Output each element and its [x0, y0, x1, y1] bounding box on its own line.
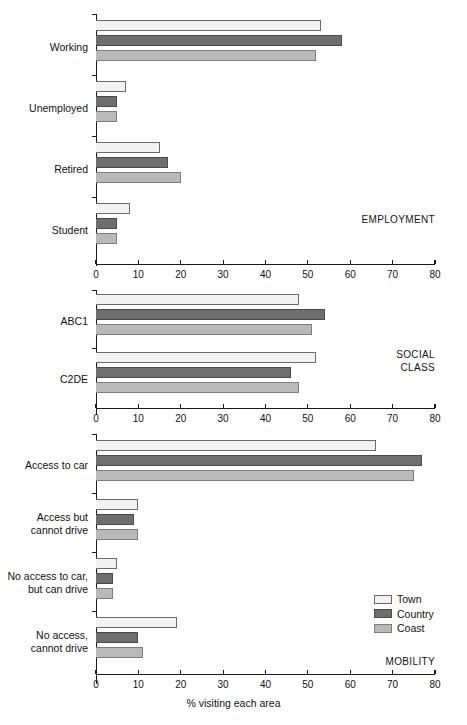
y-tick	[92, 611, 96, 612]
y-tick	[92, 348, 96, 349]
bar-abc1-town	[96, 294, 299, 305]
category-label-student: Student	[0, 224, 88, 237]
legend-label-coast: Coast	[397, 621, 424, 636]
x-tick-label: 80	[429, 413, 440, 424]
bar-working-country	[96, 35, 342, 46]
x-tick-label: 30	[218, 679, 229, 690]
x-tick-label: 80	[429, 269, 440, 280]
bar-unemployed-coast	[96, 111, 117, 122]
x-tick	[350, 260, 351, 264]
bar-abc1-coast	[96, 324, 312, 335]
bar-no-access-cannot-drive-town	[96, 617, 177, 628]
category-label-no-access-can-drive: No access to car, but can drive	[0, 570, 88, 595]
bar-unemployed-town	[96, 81, 126, 92]
x-tick-label: 0	[93, 269, 99, 280]
x-tick	[95, 404, 96, 408]
x-tick	[223, 260, 224, 264]
y-tick	[92, 290, 96, 291]
y-tick	[92, 14, 96, 15]
x-tick-label: 20	[175, 269, 186, 280]
legend-label-town: Town	[397, 592, 422, 607]
x-tick-label: 30	[218, 413, 229, 424]
bar-no-access-cannot-drive-coast	[96, 647, 143, 658]
x-tick-label: 0	[93, 679, 99, 690]
panel-employment: 01020304050607080 Working Unemployed Ret…	[0, 14, 467, 266]
section-caption-mobility: MOBILITY	[275, 655, 435, 668]
bar-no-access-can-drive-country	[96, 573, 113, 584]
bar-access-to-car-country	[96, 455, 422, 466]
x-tick	[95, 260, 96, 264]
x-tick	[265, 404, 266, 408]
bar-access-to-car-coast	[96, 470, 414, 481]
x-tick-label: 60	[345, 269, 356, 280]
x-tick	[265, 260, 266, 264]
x-tick	[392, 404, 393, 408]
section-caption-social-class: SOCIAL CLASS	[275, 348, 435, 374]
x-tick-label: 20	[175, 413, 186, 424]
category-label-c2de: C2DE	[0, 373, 88, 386]
y-tick	[92, 197, 96, 198]
x-tick-label: 10	[133, 269, 144, 280]
x-tick	[223, 670, 224, 674]
plot-area-mobility: 01020304050607080	[96, 434, 435, 684]
x-tick	[265, 670, 266, 674]
category-label-unemployed: Unemployed	[0, 102, 88, 115]
legend-label-country: Country	[397, 607, 434, 622]
category-label-access-cannot-drive: Access but cannot drive	[0, 511, 88, 536]
x-tick	[180, 670, 181, 674]
x-tick-label: 60	[345, 413, 356, 424]
x-tick	[307, 260, 308, 264]
bar-c2de-coast	[96, 382, 299, 393]
bar-no-access-cannot-drive-country	[96, 632, 138, 643]
bar-retired-town	[96, 142, 160, 153]
x-tick	[138, 670, 139, 674]
x-tick-label: 20	[175, 679, 186, 690]
x-tick	[180, 404, 181, 408]
x-tick-label: 70	[387, 413, 398, 424]
category-label-access-to-car: Access to car	[0, 459, 88, 472]
category-label-working: Working	[0, 41, 88, 54]
x-tick	[138, 404, 139, 408]
x-tick	[434, 404, 435, 408]
plot-area-employment: 01020304050607080	[96, 14, 435, 266]
x-tick	[138, 260, 139, 264]
x-tick	[350, 404, 351, 408]
bar-student-coast	[96, 233, 117, 244]
bar-abc1-country	[96, 309, 325, 320]
bar-no-access-can-drive-town	[96, 558, 117, 569]
bar-working-coast	[96, 50, 316, 61]
legend-swatch-coast-icon	[374, 624, 392, 633]
x-tick-label: 40	[260, 679, 271, 690]
bar-retired-country	[96, 157, 168, 168]
category-label-no-access-cannot-drive: No access, cannot drive	[0, 629, 88, 654]
x-tick	[392, 670, 393, 674]
x-tick	[434, 260, 435, 264]
bar-retired-coast	[96, 172, 181, 183]
x-tick	[307, 404, 308, 408]
x-tick	[392, 260, 393, 264]
x-tick	[434, 670, 435, 674]
bar-student-country	[96, 218, 117, 229]
legend-swatch-town-icon	[374, 595, 392, 604]
y-tick	[92, 434, 96, 435]
x-tick-label: 40	[260, 413, 271, 424]
bar-student-town	[96, 203, 130, 214]
x-tick	[95, 670, 96, 674]
legend-item-town: Town	[374, 592, 434, 607]
x-tick-label: 40	[260, 269, 271, 280]
y-tick	[92, 493, 96, 494]
x-axis-line	[96, 674, 435, 675]
legend-item-coast: Coast	[374, 621, 434, 636]
x-tick-label: 80	[429, 679, 440, 690]
x-tick	[307, 670, 308, 674]
x-tick-label: 50	[302, 413, 313, 424]
x-axis-line	[96, 264, 435, 265]
category-label-abc1: ABC1	[0, 315, 88, 328]
x-tick-label: 10	[133, 413, 144, 424]
bar-access-cannot-drive-town	[96, 499, 138, 510]
bar-unemployed-country	[96, 96, 117, 107]
legend-swatch-country-icon	[374, 609, 392, 618]
x-tick	[350, 670, 351, 674]
x-tick-label: 10	[133, 679, 144, 690]
x-tick-label: 30	[218, 269, 229, 280]
